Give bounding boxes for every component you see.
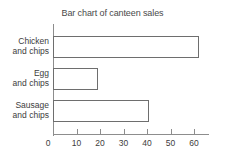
- x-tick-60: [194, 129, 195, 135]
- x-tick-10: [77, 129, 78, 135]
- x-tick-label-30: 30: [112, 138, 136, 148]
- category-label-line2: and chips: [0, 46, 49, 56]
- category-label-line1: Sausage: [0, 100, 49, 110]
- x-tick-label-20: 20: [88, 138, 112, 148]
- x-tick-label-50: 50: [159, 138, 183, 148]
- category-label-line2: and chips: [0, 110, 49, 120]
- chart-title: Bar chart of canteen sales: [0, 8, 225, 18]
- x-tick-label-40: 40: [135, 138, 159, 148]
- category-label-chicken-and-chips: Chicken and chips: [0, 36, 49, 56]
- x-tick-label-60: 60: [182, 138, 206, 148]
- category-label-line2: and chips: [0, 78, 49, 88]
- x-tick-20: [100, 129, 101, 135]
- bar-chart: Bar chart of canteen sales Chicken and c…: [0, 0, 225, 160]
- x-tick-40: [147, 129, 148, 135]
- x-tick-30: [124, 129, 125, 135]
- x-tick-label-10: 10: [65, 138, 89, 148]
- category-label-egg-and-chips: Egg and chips: [0, 68, 49, 88]
- bar-sausage-and-chips: [53, 100, 149, 122]
- x-tick-label-0: 0: [36, 138, 60, 148]
- x-tick-0: [53, 126, 54, 135]
- x-tick-50: [171, 129, 172, 135]
- bar-egg-and-chips: [53, 68, 98, 90]
- category-label-line1: Chicken: [0, 36, 49, 46]
- category-label-line1: Egg: [0, 68, 49, 78]
- bar-chicken-and-chips: [53, 36, 199, 58]
- category-label-sausage-and-chips: Sausage and chips: [0, 100, 49, 120]
